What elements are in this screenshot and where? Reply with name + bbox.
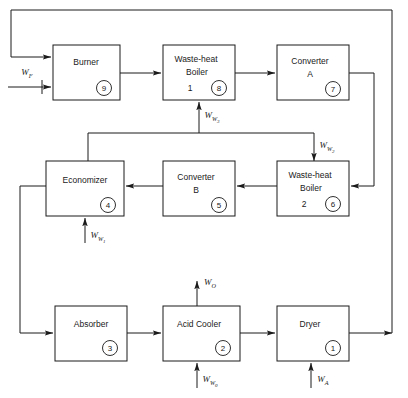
flow-diagram-canvas: Burner 9 Waste-heat Boiler 1 8 Converter… — [0, 0, 408, 398]
line-economizer-to-absorber — [20, 186, 46, 333]
line-converter-a-to-boiler-2 — [349, 73, 374, 186]
stream-label-ww2: WW2 — [319, 140, 335, 154]
unit-label-converter-b-line2: B — [193, 185, 199, 195]
stream-label-wf: WF — [21, 67, 33, 79]
unit-label-boiler-2-line2: Boiler — [300, 183, 322, 193]
tag-number-converter-a: 7 — [331, 85, 336, 94]
process-flow-diagram: Burner 9 Waste-heat Boiler 1 8 Converter… — [0, 0, 408, 398]
unit-label-converter-a-line1: Converter — [291, 56, 328, 66]
unit-label-boiler-2-line3: 2 — [302, 199, 307, 209]
unit-label-boiler-2-line1: Waste-heat — [288, 170, 332, 180]
tag-number-boiler-2: 6 — [331, 200, 336, 209]
unit-label-absorber: Absorber — [74, 319, 109, 329]
tag-number-converter-b: 5 — [217, 201, 222, 210]
tag-number-burner: 9 — [102, 84, 107, 93]
stream-label-ww1: WW1 — [90, 230, 105, 244]
tag-number-absorber: 3 — [108, 344, 113, 353]
tag-number-economizer: 4 — [106, 201, 111, 210]
tag-number-acid-cooler: 2 — [221, 344, 226, 353]
unit-label-burner: Burner — [73, 57, 99, 67]
tag-number-boiler-1: 8 — [217, 84, 222, 93]
unit-label-economizer: Economizer — [63, 175, 108, 185]
unit-label-boiler-1-line1: Waste-heat — [174, 54, 218, 64]
unit-label-converter-a-line2: A — [307, 69, 313, 79]
unit-label-dryer: Dryer — [300, 319, 321, 329]
stream-label-ww0: WW0 — [202, 374, 218, 388]
unit-label-boiler-1-line2: Boiler — [186, 67, 208, 77]
unit-label-converter-b-line1: Converter — [177, 172, 214, 182]
stream-label-wo: WO — [204, 277, 217, 289]
stream-label-ww3: WW3 — [204, 110, 220, 124]
stream-label-wa: WA — [317, 374, 329, 386]
unit-label-boiler-1-line3: 1 — [188, 83, 193, 93]
unit-label-acid-cooler: Acid Cooler — [177, 319, 221, 329]
tag-number-dryer: 1 — [331, 344, 336, 353]
